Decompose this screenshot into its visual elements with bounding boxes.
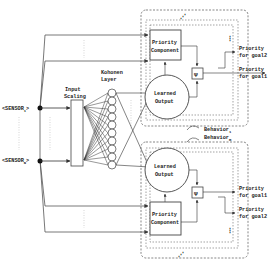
sensor-input-1: <SENSOR1> xyxy=(2,106,70,113)
behavior-m-group: ⋰ Learned Output Priority Component Ψ ⋮ … xyxy=(141,135,267,258)
psi-symbol: Ψ xyxy=(194,72,198,79)
input-scaling-label-1: Input xyxy=(65,87,81,93)
sensor-1-label: <SENSOR1> xyxy=(2,106,29,113)
output-goal1-label: Priority xyxy=(239,186,265,192)
priority-component-label: Component xyxy=(151,48,179,54)
input-scaling-label-2: Scaling xyxy=(64,94,86,100)
goal-ellipsis: ⋮ xyxy=(227,35,233,42)
output-goal1-label: for goal1 xyxy=(239,74,267,80)
priority-component-label: Priority xyxy=(152,212,178,218)
output-goal2-label: for goal2 xyxy=(239,214,267,220)
kohonen-to-learned-connections xyxy=(116,93,150,169)
output-goal2-label: Priority xyxy=(239,207,265,213)
behavior-1-learned-output xyxy=(145,75,189,119)
behavior-architecture-diagram: <SENSOR1> <SENSORN> Input Scaling Kohone… xyxy=(0,0,276,264)
behavior-1-pointer xyxy=(187,126,199,130)
kohonen-neurons xyxy=(108,89,116,169)
output-goal1-label: for goal1 xyxy=(239,193,267,199)
stack-ellipsis-bottom: ⋰ xyxy=(178,251,184,258)
scaling-to-kohonen-connections xyxy=(84,93,108,165)
kohonen-label-2: Layer xyxy=(101,77,117,83)
priority-component-label: Component xyxy=(151,220,179,226)
sensor-feedback-lines xyxy=(40,35,148,232)
behavior-m-label: Behaviorm xyxy=(204,135,232,142)
behavior-m-learned-output xyxy=(145,148,189,192)
behavior-1-group: ⋰ Priority Component Learned Output Ψ ⋮ … xyxy=(141,10,267,134)
learned-output-label: Learned xyxy=(154,164,176,170)
learned-output-label: Learned xyxy=(154,91,176,97)
learned-output-label: Output xyxy=(155,99,174,105)
sensor-input-n: <SENSORN> xyxy=(2,158,70,165)
learned-output-label: Output xyxy=(155,172,174,178)
input-scaling-box xyxy=(71,100,83,166)
behavior-1-label: Behavior1 xyxy=(204,127,232,134)
stack-ellipsis-top: ⋰ xyxy=(180,13,186,20)
output-goal2-label: Priority xyxy=(239,46,265,52)
output-goal1-label: Priority xyxy=(239,67,265,73)
behavior-m-priority-component xyxy=(150,202,181,235)
priority-component-label: Priority xyxy=(152,40,178,46)
kohonen-label-1: Kohonen xyxy=(101,70,123,76)
behavior-m-pointer xyxy=(187,138,199,142)
output-goal2-label: for goal2 xyxy=(239,53,267,59)
psi-symbol: Ψ xyxy=(194,191,198,198)
goal-ellipsis: ⋮ xyxy=(227,227,233,234)
sensor-n-label: <SENSORN> xyxy=(2,158,29,165)
